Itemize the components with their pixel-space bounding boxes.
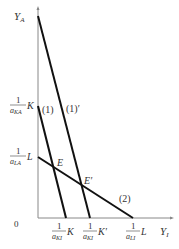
line-1-label: (1) [42,104,54,116]
svg-text:1: 1 [16,146,21,156]
svg-text:K′: K′ [97,226,108,237]
point-e-prime-label: E′ [83,175,93,186]
svg-text:1: 1 [131,221,136,231]
diagram-canvas: YA 1 aKA K 1 aLA L 0 1 aKI K 1 aKI K′ 1 … [0,0,179,249]
y-axis-arrow-icon [37,6,40,10]
svg-text:aLA: aLA [10,157,21,166]
svg-text:L: L [140,226,147,237]
x-tick-labor-ind: 1 aLI L [126,221,147,241]
line-2-label: (2) [119,193,131,205]
line-1-prime-label: (1)′ [66,103,80,115]
x-tick-capital-ind-prime: 1 aKI K′ [83,221,108,241]
point-e-label: E [56,157,63,168]
line-1-prime [38,16,90,218]
x-tick-capital-ind: 1 aKI K [52,221,75,241]
x-axis-label: YI [160,225,169,239]
y-axis-label: YA [14,10,25,24]
svg-text:1: 1 [16,95,21,105]
svg-text:K: K [26,100,35,111]
line-2 [38,157,133,218]
y-tick-labor-agri: 1 aLA L [10,146,33,166]
y-tick-capital-agri: 1 aKA K [10,95,35,115]
origin-label: 0 [14,219,19,229]
svg-text:1: 1 [57,221,62,231]
svg-text:aKI: aKI [83,232,94,241]
svg-text:K: K [66,226,75,237]
svg-text:aLI: aLI [126,232,136,241]
svg-text:L: L [26,151,33,162]
x-axis-arrow-icon [170,217,174,220]
svg-text:aKI: aKI [52,232,63,241]
svg-text:aKA: aKA [10,106,22,115]
svg-text:1: 1 [88,221,93,231]
